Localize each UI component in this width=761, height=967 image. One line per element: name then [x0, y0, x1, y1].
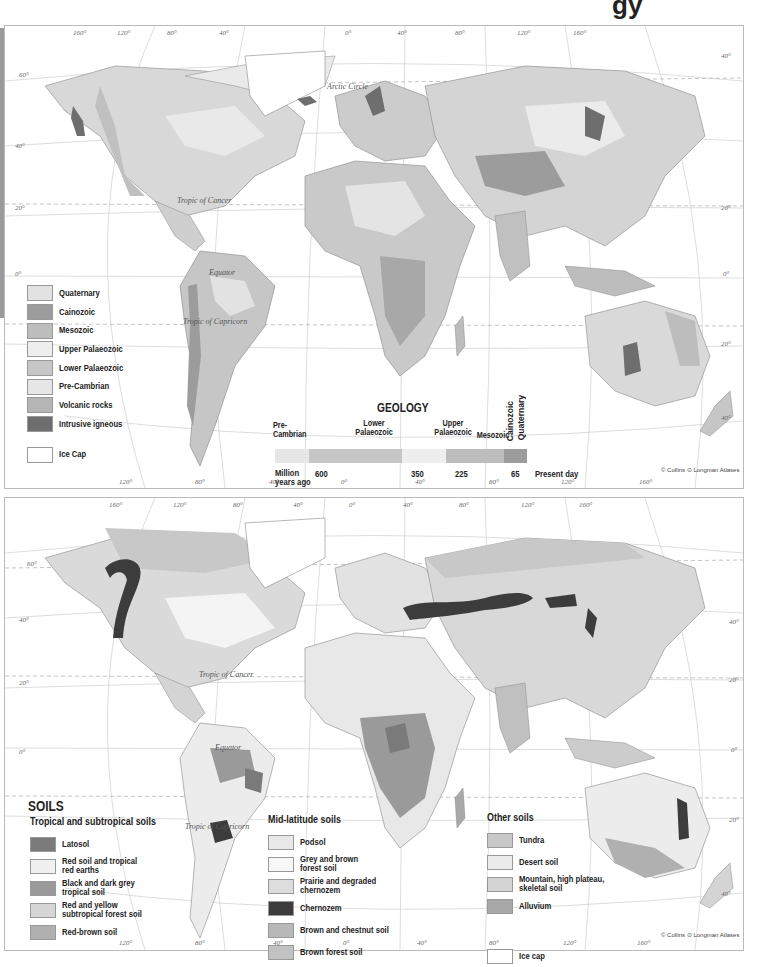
legend-item-intrusive-igneous: Intrusive igneous	[27, 415, 135, 434]
deg-label: 20°	[15, 204, 25, 212]
swatch	[30, 837, 56, 852]
legend-group-title: Other soils	[487, 811, 600, 829]
deg-label: 160°	[639, 478, 652, 486]
deg-label: 80°	[489, 478, 499, 486]
swatch	[268, 835, 294, 850]
legend-item-mountain: Mountain, high plateau,skeletal soil	[487, 873, 620, 895]
deg-label: 160°	[109, 501, 122, 509]
deg-label: 0°	[19, 748, 25, 756]
swatch	[487, 899, 513, 914]
deg-label: 160°	[573, 29, 586, 37]
deg-label: 20°	[721, 204, 731, 212]
deg-label: 40°	[721, 414, 731, 422]
legend-group-title: Mid-latitude soils	[268, 813, 384, 831]
deg-label: 20°	[729, 676, 739, 684]
deg-label: 20°	[721, 340, 731, 348]
deg-label: 80°	[195, 939, 205, 947]
timeline-bar-pre-cambrian	[275, 449, 309, 463]
deg-label: 40°	[403, 501, 413, 509]
timeline-start-label: Millionyears ago	[275, 469, 311, 487]
deg-label: 160°	[73, 29, 86, 37]
deg-label: 20°	[19, 679, 29, 687]
swatch	[30, 859, 56, 874]
legend-item-grey-brown-forest: Grey and brownforest soil	[268, 853, 405, 875]
legend-item-brown-chestnut: Brown and chestnut soil	[268, 919, 405, 941]
legend-item-ice-cap: Ice cap	[487, 945, 620, 967]
legend-item-desert-soil: Desert soil	[487, 851, 620, 873]
swatch	[487, 855, 513, 870]
deg-label: 80°	[195, 478, 205, 486]
era-cainozoic: Cainozoic	[505, 401, 515, 441]
legend-item-lower-palaeozoic: Lower Palaeozoic	[27, 359, 135, 378]
soils-legend-mid-latitude: Mid-latitude soils Podsol Grey and brown…	[268, 813, 405, 963]
deg-label: 80°	[167, 29, 177, 37]
legend-item-upper-palaeozoic: Upper Palaeozoic	[27, 340, 135, 359]
equator-label: Equator	[209, 268, 235, 277]
deg-label: 80°	[233, 501, 243, 509]
geology-legend: Quaternary Cainozoic Mesozoic Upper Pala…	[27, 284, 135, 464]
swatch	[27, 360, 53, 376]
timeline-bar-lower-palaeozoic	[309, 449, 402, 463]
deg-label: 0°	[341, 478, 347, 486]
legend-item-alluvium: Alluvium	[487, 895, 620, 917]
tropic-of-cancer-label: Tropic of Cancer	[199, 670, 253, 679]
legend-item-podsol: Podsol	[268, 831, 405, 853]
deg-label: 40°	[19, 616, 29, 624]
swatch	[487, 877, 513, 892]
legend-item-prairie: Prairie and degradedchernozem	[268, 875, 405, 897]
legend-item-latosol: Latosol	[30, 833, 178, 855]
deg-label: 120°	[517, 29, 530, 37]
geology-map-panel: Arctic Circle Tropic of Cancer Equator T…	[4, 25, 744, 489]
legend-item-red-brown: Red-brown soil	[30, 921, 178, 943]
swatch	[487, 949, 513, 964]
tick-present-day: Present day	[535, 469, 578, 479]
legend-item-chernozem: Chernozem	[268, 897, 405, 919]
swatch	[487, 833, 513, 848]
timeline-title: GEOLOGY	[377, 401, 429, 415]
swatch	[27, 447, 53, 463]
era-quaternary: Quaternary	[516, 395, 526, 440]
swatch	[27, 397, 53, 413]
legend-item-cainozoic: Cainozoic	[27, 303, 135, 322]
deg-label: 20°	[729, 816, 739, 824]
swatch	[30, 903, 56, 918]
legend-item-mesozoic: Mesozoic	[27, 321, 135, 340]
equator-label: Equator	[215, 743, 241, 752]
deg-label: 60°	[27, 560, 37, 568]
tick-600: 600	[315, 469, 328, 479]
deg-label: 0°	[731, 746, 737, 754]
page-title-fragment: gy	[612, 0, 642, 21]
tropic-of-capricorn-label: Tropic of Capricorn	[185, 822, 249, 831]
copyright-credit: © Collins ⊙ Longman Atlases	[661, 931, 739, 938]
soils-legend-other: Other soils Tundra Desert soil Mountain,…	[487, 811, 620, 967]
legend-item-tundra: Tundra	[487, 829, 620, 851]
deg-label: 0°	[15, 270, 21, 278]
deg-label: 0°	[345, 29, 351, 37]
legend-item-red-yellow: Red and yellowsubtropical forest soil	[30, 899, 178, 921]
deg-label: 0°	[349, 501, 355, 509]
legend-item-red-soil: Red soil and tropicalred earths	[30, 855, 178, 877]
swatch	[27, 304, 53, 320]
swatch	[27, 416, 53, 432]
deg-label: 0°	[723, 270, 729, 278]
legend-item-black-dark-grey: Black and dark greytropical soil	[30, 877, 178, 899]
swatch	[27, 379, 53, 395]
tropic-of-cancer-label: Tropic of Cancer	[177, 196, 231, 205]
deg-label: 120°	[173, 501, 186, 509]
swatch	[268, 945, 294, 960]
swatch	[30, 881, 56, 896]
swatch	[268, 923, 294, 938]
swatch	[268, 857, 294, 872]
deg-label: 40°	[729, 618, 739, 626]
legend-group-title: Tropical and subtropical soils	[30, 815, 156, 833]
deg-label: 40°	[721, 890, 731, 898]
era-pre-cambrian: Pre-Cambrian	[273, 421, 306, 438]
soils-legend-tropical: Tropical and subtropical soils Latosol R…	[30, 815, 178, 943]
deg-label: 40°	[15, 142, 25, 150]
deg-label: 160°	[637, 939, 650, 947]
timeline-bar-upper-palaeozoic	[402, 449, 446, 463]
deg-label: 80°	[459, 501, 469, 509]
deg-label: 40°	[415, 478, 425, 486]
deg-label: 120°	[561, 478, 574, 486]
deg-label: 40°	[721, 52, 731, 60]
